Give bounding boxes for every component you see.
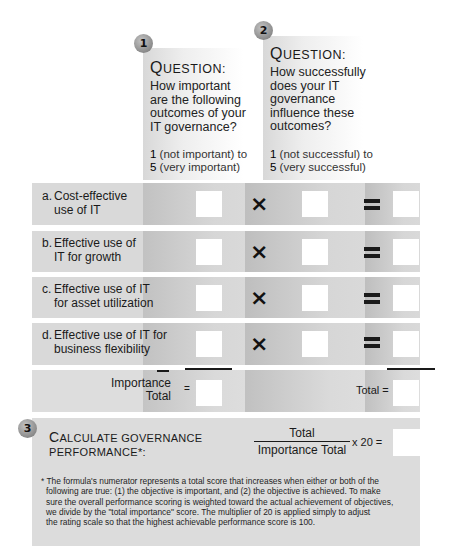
step-3-badge: 3 xyxy=(18,419,37,438)
importance-input[interactable] xyxy=(196,331,222,357)
outcome-label: b.Effective use of IT for growth xyxy=(42,237,136,264)
importance-total-label: Importance Total xyxy=(111,377,171,403)
equals-sign xyxy=(364,337,380,348)
total-label: Total = xyxy=(356,384,389,396)
importance-input[interactable] xyxy=(196,239,222,265)
total-input[interactable] xyxy=(393,380,419,406)
step-1-number: 1 xyxy=(140,37,148,50)
product-input[interactable] xyxy=(393,331,419,357)
multiply-sign: × xyxy=(250,287,268,309)
outcome-row-d: d.Effective use of IT for business flexi… xyxy=(32,323,420,365)
importance-input[interactable] xyxy=(196,191,222,217)
formula-denominator: Importance Total xyxy=(254,443,350,457)
importance-total-input[interactable] xyxy=(196,380,222,406)
equals-sign xyxy=(364,293,380,304)
multiply-sign: × xyxy=(250,193,268,215)
calculate-performance-panel: CALCULATE GOVERNANCE PERFORMANCE*: Total… xyxy=(32,418,420,546)
success-input[interactable] xyxy=(302,285,328,311)
product-input[interactable] xyxy=(393,285,419,311)
step-2-badge: 2 xyxy=(254,21,273,40)
question-2-title: QUESTION: xyxy=(270,45,346,63)
outcome-row-c: c.Effective use of IT for asset utilizat… xyxy=(32,277,420,318)
product-input[interactable] xyxy=(393,191,419,217)
question-2-text: How successfully does your IT governance… xyxy=(270,66,366,134)
multiply-sign: × xyxy=(250,333,268,355)
formula-multiplier: x 20 = xyxy=(352,436,382,448)
success-input[interactable] xyxy=(302,331,328,357)
outcome-label: d.Effective use of IT for business flexi… xyxy=(42,329,167,356)
success-input[interactable] xyxy=(302,191,328,217)
outcome-label: c.Effective use of IT for asset utilizat… xyxy=(42,283,153,310)
outcome-row-a: a.Cost-effective use of IT × xyxy=(32,183,420,225)
question-1-text: How important are the following outcomes… xyxy=(150,80,246,134)
calculate-title: CALCULATE GOVERNANCE PERFORMANCE*: xyxy=(49,430,202,459)
outcome-label: a.Cost-effective use of IT xyxy=(42,190,127,217)
product-input[interactable] xyxy=(393,239,419,265)
question-2-scale: 1 (not successful) to 5 (very successful… xyxy=(270,148,373,174)
question-1-title: QUESTION: xyxy=(150,59,226,77)
equals-sign xyxy=(364,247,380,258)
importance-total-equals: = xyxy=(184,383,190,394)
multiply-sign: × xyxy=(250,241,268,263)
outcome-row-b: b.Effective use of IT for growth × xyxy=(32,231,420,272)
importance-total-rule xyxy=(185,368,232,370)
footnote: * The formula's numerator represents a t… xyxy=(41,476,421,527)
fraction-bar xyxy=(254,441,350,442)
performance-formula: Total Importance Total xyxy=(254,426,350,457)
performance-score-input[interactable] xyxy=(393,429,420,456)
step-3-number: 3 xyxy=(24,422,32,435)
equals-sign xyxy=(364,199,380,210)
formula-numerator: Total xyxy=(254,426,350,440)
success-input[interactable] xyxy=(302,239,328,265)
step-2-number: 2 xyxy=(260,24,268,37)
importance-total-rule-end xyxy=(157,370,169,372)
question-1-scale: 1 (not important) to 5 (very important) xyxy=(150,148,247,174)
importance-input[interactable] xyxy=(196,285,222,311)
total-rule xyxy=(387,368,435,370)
totals-row: Importance Total = Total = xyxy=(32,370,420,412)
step-1-badge: 1 xyxy=(134,34,153,53)
